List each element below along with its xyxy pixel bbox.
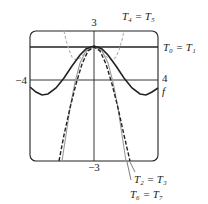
y-bottom-label: −3 <box>88 161 100 173</box>
leader-t2 <box>130 162 135 172</box>
label-t2-t3: T₂ = T₃ <box>134 173 167 185</box>
y-top-label: 3 <box>91 16 97 28</box>
label-t4-t5: T₄ = T₅ <box>122 10 155 22</box>
taylor-plot: 3 −3 −4 4 f T₄ = T₅ T₀ = T₁ T₂ = T₃ T₆ =… <box>0 0 208 204</box>
label-t0-t1: T₀ = T₁ <box>163 41 196 53</box>
x-left-label: −4 <box>15 74 27 86</box>
leader-t6 <box>127 162 131 180</box>
series-t2-t3 <box>59 47 130 161</box>
label-t6-t7: T₆ = T₇ <box>130 188 163 200</box>
x-right-label: 4 <box>162 72 168 84</box>
f-label: f <box>162 85 167 97</box>
